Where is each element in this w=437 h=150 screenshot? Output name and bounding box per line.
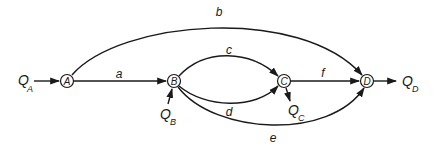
flow-qb: Q B — [160, 89, 176, 127]
node-d: D — [361, 75, 374, 88]
edge-e: e — [178, 87, 364, 145]
edge-label-a: a — [116, 67, 123, 81]
flow-network-diagram: a b c d e f Q A Q B Q C — [0, 0, 437, 150]
node-b: B — [168, 75, 181, 88]
edge-c: c — [179, 43, 278, 76]
node-label-d: D — [363, 76, 370, 87]
edge-label-c: c — [226, 43, 232, 57]
edge-a: a — [74, 67, 166, 81]
flow-qb-sub: B — [170, 117, 176, 127]
flow-qd: Q D — [374, 73, 419, 94]
edge-f: f — [291, 66, 359, 81]
edge-label-e: e — [270, 131, 277, 145]
flow-qd-sub: D — [412, 84, 419, 94]
node-label-b: B — [171, 76, 178, 87]
flow-qc: Q C — [286, 88, 305, 123]
flow-qc-sub: C — [298, 113, 305, 123]
node-label-c: C — [280, 76, 288, 87]
edge-label-b: b — [216, 5, 223, 19]
flow-qa-sub: A — [26, 84, 33, 94]
edge-label-f: f — [321, 66, 326, 80]
edge-label-d: d — [226, 105, 233, 119]
edge-b: b — [72, 5, 362, 75]
node-a: A — [61, 75, 74, 88]
node-c: C — [278, 75, 291, 88]
flow-qa: Q A — [18, 72, 59, 94]
diagram-svg: a b c d e f Q A Q B Q C — [0, 0, 437, 150]
node-label-a: A — [63, 76, 71, 87]
